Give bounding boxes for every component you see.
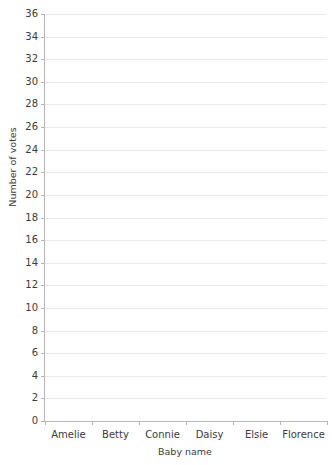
y-tick-label: 36: [0, 9, 38, 19]
y-tick-label: 28: [0, 99, 38, 109]
y-tick-label: 18: [0, 213, 38, 223]
x-tick-mark: [280, 421, 281, 425]
y-tick-label: 26: [0, 122, 38, 132]
y-tick-label: 10: [0, 303, 38, 313]
y-tick-label: 22: [0, 167, 38, 177]
y-tick-label: 2: [0, 393, 38, 403]
y-tick-label: 16: [0, 235, 38, 245]
y-tick-label: 32: [0, 54, 38, 64]
x-tick-mark: [45, 421, 46, 425]
y-tick-label: 24: [0, 145, 38, 155]
x-tick-mark: [92, 421, 93, 425]
y-tick-label: 30: [0, 77, 38, 87]
y-tick-label: 6: [0, 348, 38, 358]
y-tick-label: 0: [0, 416, 38, 426]
bars-layer: [45, 14, 327, 421]
y-tick-label: 4: [0, 371, 38, 381]
y-tick-label: 20: [0, 190, 38, 200]
chart-title: [0, 0, 326, 7]
x-axis-title: Baby name: [44, 446, 326, 457]
plot-area: 024681012141618202224262830323436 Amelie…: [44, 14, 326, 421]
x-tick-mark: [186, 421, 187, 425]
x-tick-mark: [139, 421, 140, 425]
x-tick-label: Florence: [264, 429, 332, 441]
y-tick-label: 34: [0, 32, 38, 42]
x-tick-mark: [327, 421, 328, 425]
y-tick-label: 8: [0, 326, 38, 336]
x-tick-mark: [233, 421, 234, 425]
y-tick-label: 14: [0, 258, 38, 268]
y-tick-label: 12: [0, 280, 38, 290]
